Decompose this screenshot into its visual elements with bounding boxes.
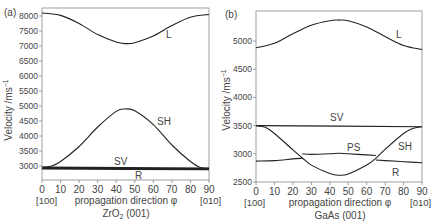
curve-label-L: L [166, 29, 172, 40]
y-tick-label: 4000 [233, 92, 252, 102]
curve-label-SH: SH [398, 141, 412, 152]
curve-SV [256, 126, 422, 127]
x-tick-label: 40 [111, 184, 123, 195]
panel-caption: ZrO2 (001) [102, 208, 149, 220]
curve-L [42, 13, 209, 44]
y-tick-label: 7000 [19, 41, 38, 51]
panel-b-gaas: (b) 250030003500400045005000 01020304050… [220, 9, 431, 221]
panel-a-frame [42, 8, 209, 180]
curve-label-SV: SV [330, 112, 344, 123]
panel-b-y-ticks: 250030003500400045005000 [233, 36, 256, 187]
panel-b-x-ticks: 0102030405060708090 [253, 182, 428, 197]
x-tick-label: 10 [269, 186, 281, 197]
y-tick-label: 4500 [233, 64, 252, 74]
curve-R [256, 158, 302, 161]
x-tick-label: 0 [39, 184, 45, 195]
y-tick-label: 8000 [19, 11, 38, 21]
panel-b-label: (b) [225, 9, 237, 20]
y-tick-label: 2500 [233, 177, 252, 187]
y-tick-label: 3500 [19, 146, 38, 156]
panel-b-curves [256, 20, 422, 175]
y-tick-label: 3000 [233, 149, 252, 159]
x-tick-label: 90 [203, 184, 215, 195]
x-tick-label: 30 [306, 186, 318, 197]
x-tick-label: 50 [129, 184, 141, 195]
x-axis-title: propagation direction φ [289, 197, 392, 208]
figure: (a) 300035004000450050005500600065007000… [0, 0, 436, 224]
curve-label-SH: SH [157, 116, 171, 127]
y-tick-label: 6500 [19, 56, 38, 66]
panel-a-curves [42, 13, 209, 169]
x-dir-left: [100] [244, 197, 265, 208]
x-tick-label: 10 [55, 184, 67, 195]
panel-caption: GaAs (001) [314, 210, 365, 221]
y-tick-label: 3500 [233, 121, 252, 131]
curve-R [376, 160, 422, 163]
y-tick-label: 5500 [19, 86, 38, 96]
y-tick-label: 5000 [233, 36, 252, 46]
x-tick-label: 80 [398, 186, 410, 197]
x-tick-label: 60 [148, 184, 160, 195]
x-tick-label: 0 [253, 186, 259, 197]
curve-label-PS: PS [347, 142, 361, 153]
y-tick-label: 4000 [19, 131, 38, 141]
x-dir-right: [010] [200, 195, 221, 206]
x-tick-label: 80 [185, 184, 197, 195]
x-dir-right: [010] [410, 197, 431, 208]
x-tick-label: 20 [74, 184, 86, 195]
panel-a-zro2: (a) 300035004000450050005500600065007000… [2, 7, 221, 220]
panel-a-x-ticks: 0102030405060708090 [39, 180, 215, 195]
x-tick-label: 20 [287, 186, 299, 197]
y-tick-label: 5000 [19, 101, 38, 111]
y-tick-label: 7500 [19, 26, 38, 36]
x-axis-title: propagation direction φ [75, 195, 178, 206]
x-dir-left: [100] [36, 195, 57, 206]
x-tick-label: 40 [324, 186, 336, 197]
x-tick-label: 70 [166, 184, 178, 195]
curve-label-L: L [396, 29, 402, 40]
y-tick-label: 6000 [19, 71, 38, 81]
curve-PS [302, 153, 376, 155]
x-tick-label: 60 [361, 186, 373, 197]
panel-a-label: (a) [4, 7, 16, 18]
y-axis-title: Velocity /ms−1 [220, 69, 232, 130]
curve-label-R: R [135, 170, 142, 181]
x-tick-label: 50 [343, 186, 355, 197]
y-tick-label: 4500 [19, 116, 38, 126]
x-tick-label: 90 [416, 186, 428, 197]
panel-a-y-ticks: 3000350040004500500055006000650070007500… [19, 11, 42, 171]
y-tick-label: 3000 [19, 161, 38, 171]
curve-label-SV: SV [114, 156, 128, 167]
x-tick-label: 70 [380, 186, 392, 197]
curve-label-R: R [392, 167, 399, 178]
y-axis-title: Velocity /ms−1 [2, 79, 14, 140]
curve-R [42, 169, 209, 170]
x-tick-label: 30 [92, 184, 104, 195]
